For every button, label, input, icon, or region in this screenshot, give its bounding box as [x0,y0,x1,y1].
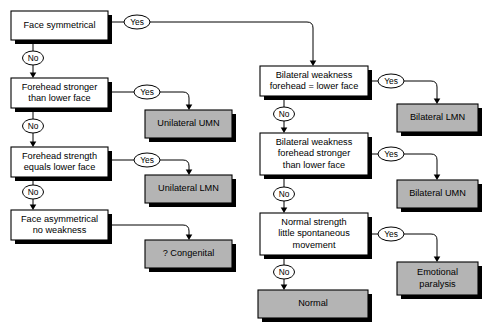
node-forehead-stronger-than-lower-face: Forehead strongerthan lower face [11,78,112,112]
edge-label-text: No [28,121,39,131]
arrowhead-icon [30,205,37,210]
node-face-asymmetrical-no-weakness: Face asymmetricalno weakness [11,210,112,244]
node-label-line: forehead = lower face [270,81,359,91]
node-forehead-strength-equals-lower-face: Forehead strengthequals lower face [11,147,112,181]
arrowhead-icon [186,105,193,110]
nodes-layer: Face symmetricalForehead strongerthan lo… [11,11,482,322]
arrowhead-icon [281,285,288,290]
node-label-line: Emotional [417,267,458,277]
node-label-line: movement [293,240,336,250]
node-label-line: Forehead strength [22,151,97,161]
node-unilateral-umn: Unilateral UMN [145,110,236,142]
flowchart-svg: Face symmetricalForehead strongerthan lo… [0,0,493,332]
node-face-symmetrical: Face symmetrical [11,11,112,44]
arrowhead-icon [186,170,193,175]
node-label-line: than lower face [28,93,90,103]
edge-label-text: Yes [384,149,398,159]
edge-face-asymmetrical-to-congenital [112,225,192,240]
node-congenital: ? Congenital [145,240,236,272]
edge-label-forehead-strength-equals-yes: Yes [134,153,160,167]
edge-label-text: Yes [140,87,154,97]
connector-line [112,225,189,236]
edge-label-text: Yes [130,17,144,27]
edge-label-text: No [279,109,290,119]
node-label-line: than lower face [283,160,345,170]
arrowhead-icon [281,208,288,213]
flowchart-canvas: Face symmetricalForehead strongerthan lo… [0,0,493,332]
edge-label-text: No [28,187,39,197]
node-bilateral-weakness-forehead-stronger: Bilateral weaknessforehead strongerthan … [260,133,372,179]
edge-label-forehead-stronger-yes: Yes [134,85,160,99]
edge-label-forehead-strength-equals-no: No [23,185,44,199]
node-label-line: paralysis [419,279,456,289]
edge-label-normal-strength-yes: Yes [378,227,404,241]
edge-label-normal-strength-no: No [274,265,295,279]
node-label-line: Bilateral weakness [276,137,353,147]
arrowhead-icon [434,175,441,180]
node-normal: Normal [258,290,372,322]
node-bilateral-umn: Bilateral UMN [397,180,482,212]
edge-label-face-symmetrical-yes: Yes [124,15,150,29]
edge-label-forehead-stronger-no: No [23,119,44,133]
edge-label-bilateral-equals-no: No [274,107,295,121]
node-label-line: Face asymmetrical [21,214,98,224]
edge-label-bilateral-equals-yes: Yes [378,74,404,88]
edge-label-bilateral-stronger-no: No [274,187,295,201]
node-label-line: little spontaneous [278,228,350,238]
edge-label-text: No [28,53,39,63]
node-unilateral-lmn: Unilateral LMN [145,175,236,207]
node-bilateral-lmn: Bilateral LMN [397,104,482,136]
edge-label-text: No [279,189,290,199]
edge-label-face-symmetrical-no: No [23,51,44,65]
edge-label-text: Yes [384,229,398,239]
node-label-line: Normal [298,298,328,308]
node-label-line: ? Congenital [163,248,215,258]
node-bilateral-weakness-forehead-equals-lower-face: Bilateral weaknessforehead = lower face [260,66,372,100]
node-label-line: Forehead stronger [22,82,98,92]
node-label-line: Normal strength [281,217,346,227]
arrowhead-icon [186,235,193,240]
arrowhead-icon [434,257,441,262]
arrowhead-icon [30,142,37,147]
node-label-line: forehead stronger [278,148,351,158]
node-label-line: Unilateral UMN [157,118,219,128]
edge-label-text: No [279,267,290,277]
node-normal-strength-little-spontaneous-movement: Normal strengthlittle spontaneousmovemen… [260,213,372,259]
arrowhead-icon [310,61,317,66]
edge-label-text: Yes [140,155,154,165]
edge-label-text: Yes [384,76,398,86]
node-label-line: Bilateral weakness [276,70,353,80]
node-label-line: no weakness [33,225,87,235]
node-emotional-paralysis: Emotionalparalysis [397,262,482,299]
node-label-line: Face symmetrical [24,20,96,30]
arrowhead-icon [30,73,37,78]
node-label-line: equals lower face [24,162,96,172]
node-label-line: Bilateral LMN [410,112,465,122]
node-label-line: Unilateral LMN [158,183,219,193]
arrowhead-icon [281,128,288,133]
node-label-line: Bilateral UMN [409,188,466,198]
arrowhead-icon [434,99,441,104]
edge-label-bilateral-stronger-yes: Yes [378,147,404,161]
